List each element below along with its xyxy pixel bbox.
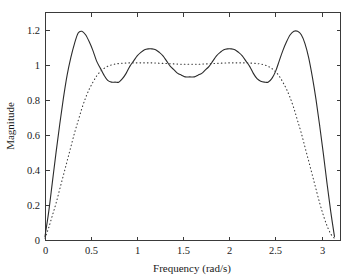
x-tick-label: 1.5 (177, 245, 190, 256)
y-axis-ticks (46, 31, 341, 241)
y-tick-label: 1 (35, 60, 40, 71)
series-group (45, 31, 334, 238)
figure-canvas: 00.511.522.53 00.20.40.60.811.2 Frequenc… (0, 0, 353, 278)
x-tick-label: 3 (320, 245, 325, 256)
y-tick-label: 0.4 (27, 165, 41, 176)
series-equiripple-response (45, 31, 334, 237)
y-tick-label: 0.8 (27, 95, 40, 106)
x-tick-label: 0.5 (85, 245, 98, 256)
x-tick-label: 0 (43, 245, 48, 256)
x-tick-label: 1 (135, 245, 140, 256)
y-tick-label: 0.2 (27, 200, 40, 211)
x-tick-label: 2.5 (269, 245, 282, 256)
magnitude-response-chart: 00.511.522.53 00.20.40.60.811.2 Frequenc… (0, 0, 353, 278)
axes-frame (46, 13, 341, 241)
y-axis-tick-labels: 00.20.40.60.811.2 (27, 25, 41, 246)
axes-box (46, 13, 341, 241)
x-axis-ticks (46, 13, 323, 241)
series-maximally-flat-response (45, 63, 334, 238)
y-tick-label: 0.6 (27, 130, 40, 141)
y-tick-label: 1.2 (27, 25, 40, 36)
x-axis-label: Frequency (rad/s) (153, 262, 231, 275)
y-tick-label: 0 (35, 235, 40, 246)
x-axis-tick-labels: 00.511.522.53 (43, 245, 325, 256)
x-tick-label: 2 (227, 245, 232, 256)
y-axis-label: Magnitude (4, 102, 16, 150)
